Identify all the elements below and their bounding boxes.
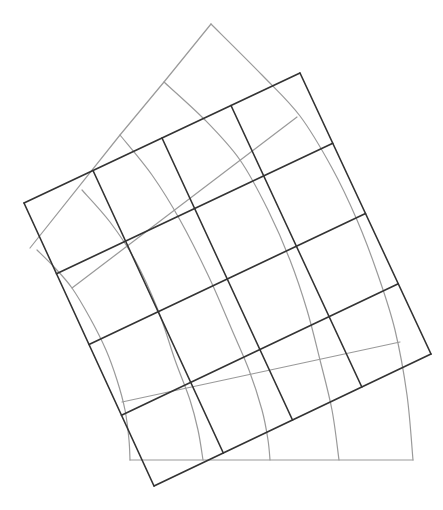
background	[0, 0, 443, 510]
grid-warp-diagram	[0, 0, 443, 510]
